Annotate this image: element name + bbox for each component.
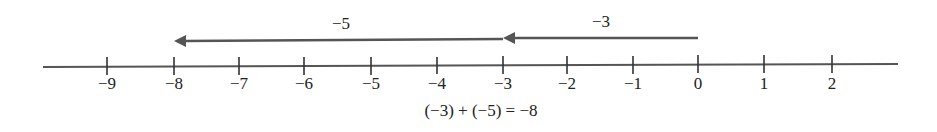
tick-label: −7: [230, 74, 248, 94]
arrow-label-minus-5: −5: [332, 14, 350, 34]
tick-label: −1: [624, 74, 642, 94]
arrow-minus-3: [503, 32, 698, 44]
tick-label: 2: [828, 74, 837, 94]
tick-label: −6: [295, 74, 313, 94]
number-line-diagram: −3 −5 −9 −8 −7 −6 −5 −4 −3 −2 −1 0 1 2 (…: [0, 0, 937, 132]
tick-label: −2: [558, 74, 576, 94]
arrow-label-minus-3: −3: [592, 12, 610, 32]
tick-label: −4: [428, 74, 446, 94]
tick-label: −8: [165, 74, 183, 94]
tick-label: 1: [760, 74, 769, 94]
axis-line: [43, 64, 898, 67]
equation-caption: (−3) + (−5) = −8: [424, 101, 537, 121]
arrow-minus-5: [174, 35, 503, 47]
tick-label: −3: [494, 74, 512, 94]
tick-label: −5: [362, 74, 380, 94]
tick-label: 0: [694, 74, 703, 94]
tick-label: −9: [98, 74, 116, 94]
